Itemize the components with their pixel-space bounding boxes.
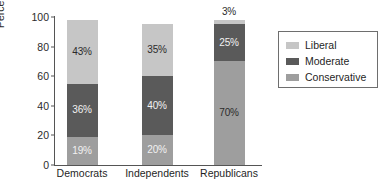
plot-area: 020406080100 43%36%19%35%40%20%3%25%70% — [54, 17, 262, 165]
bar-segment-label: 70% — [219, 108, 238, 118]
bar-segment-moderate[interactable]: 36% — [67, 84, 98, 137]
legend-item-moderate[interactable]: Moderate — [286, 53, 377, 69]
bar-republicans[interactable]: 3%25%70% — [214, 20, 245, 165]
bar-segment-label: 25% — [219, 38, 238, 48]
bar-segment-moderate[interactable]: 40% — [142, 76, 173, 135]
legend-label: Liberal — [305, 40, 337, 51]
y-axis-tick-mark — [51, 17, 54, 18]
x-axis-line — [54, 165, 262, 166]
bar-segment-label: 3% — [222, 7, 236, 17]
x-axis-label-republicans: Republicans — [200, 168, 258, 179]
bar-segment-label: 20% — [147, 145, 166, 155]
y-axis-tick-mark — [51, 105, 54, 106]
bar-segment-conservative[interactable]: 20% — [142, 135, 173, 165]
bar-independents[interactable]: 35%40%20% — [142, 24, 173, 165]
y-axis-title: Percentage — [0, 0, 6, 28]
y-axis-tick-mark — [51, 76, 54, 77]
stacked-bar-chart: Percentage 020406080100 43%36%19%35%40%2… — [0, 0, 392, 194]
y-axis-tick-mark — [51, 135, 54, 136]
bar-segment-label: 36% — [72, 105, 91, 115]
chart-legend: LiberalModerateConservative — [278, 31, 378, 88]
bar-segment-label: 43% — [72, 47, 91, 57]
legend-item-liberal[interactable]: Liberal — [286, 37, 377, 53]
bar-segment-label: 19% — [72, 146, 91, 156]
bar-segment-moderate[interactable]: 25% — [214, 24, 245, 61]
legend-label: Moderate — [305, 56, 349, 67]
y-axis-tick-mark — [51, 46, 54, 47]
bar-democrats[interactable]: 43%36%19% — [67, 20, 98, 165]
legend-swatch-moderate — [286, 58, 299, 65]
legend-item-conservative[interactable]: Conservative — [286, 69, 377, 85]
x-axis-label-democrats: Democrats — [57, 168, 108, 179]
bar-segment-conservative[interactable]: 70% — [214, 61, 245, 165]
bar-segment-label: 40% — [147, 101, 166, 111]
legend-items: LiberalModerateConservative — [286, 37, 377, 85]
legend-label: Conservative — [305, 72, 366, 83]
legend-swatch-liberal — [286, 42, 299, 49]
bar-segment-conservative[interactable]: 19% — [67, 137, 98, 165]
bar-segment-liberal[interactable]: 43% — [67, 20, 98, 84]
y-axis-tick-mark — [51, 165, 54, 166]
legend-swatch-conservative — [286, 74, 299, 81]
bar-segment-liberal[interactable]: 35% — [142, 24, 173, 76]
x-axis-label-independents: Independents — [125, 168, 189, 179]
bar-segment-label: 35% — [147, 45, 166, 55]
